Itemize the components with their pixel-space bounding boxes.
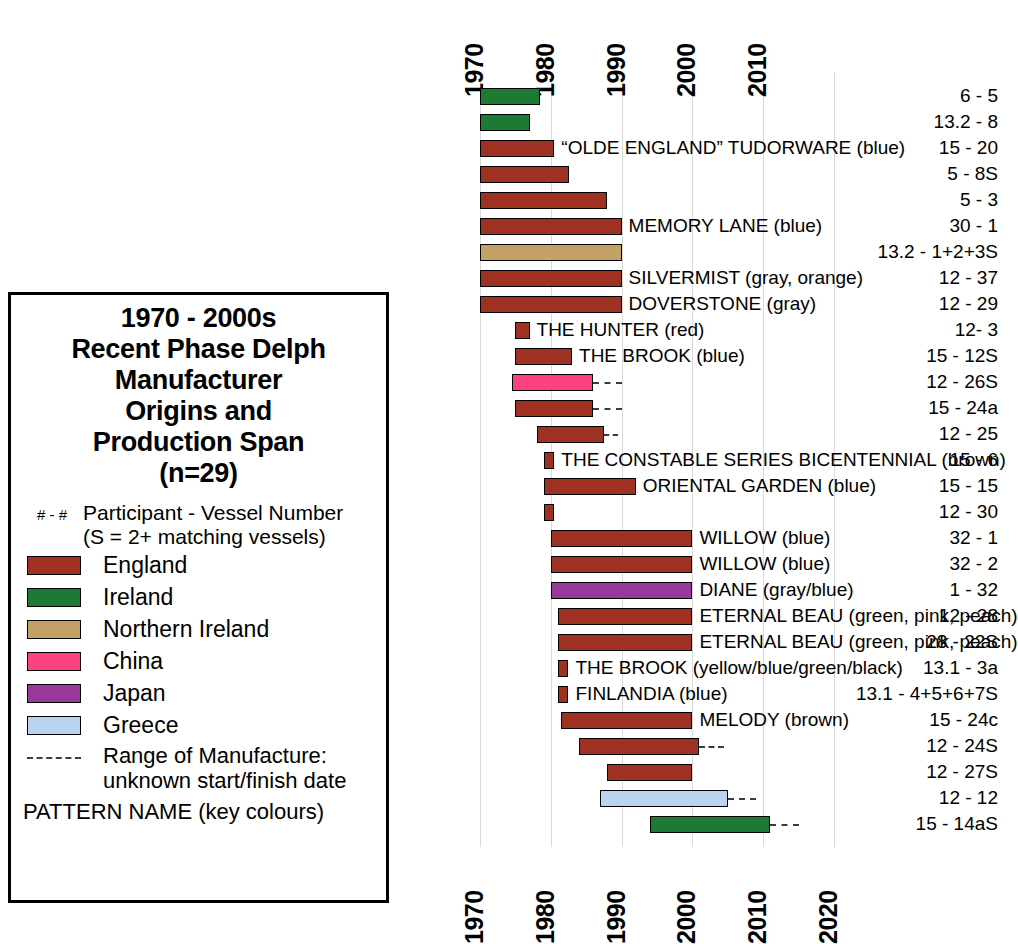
legend-range-note: Range of Manufacture: unknown start/fini…: [21, 743, 376, 793]
range-bar: [607, 764, 692, 781]
range-bar: [600, 790, 727, 807]
chart-row: 13.2 - 1+2+3S: [0, 241, 1002, 267]
range-bar: [537, 426, 604, 443]
pattern-name-label: WILLOW (blue): [699, 527, 830, 549]
chart-row: 5 - 8S: [0, 163, 1002, 189]
legend-item: England: [21, 549, 376, 581]
axis-bottom-tick-1980: 1980: [531, 890, 560, 944]
legend-color-swatch: [27, 716, 81, 735]
legend-key-note: # - # Participant - Vessel Number (S = 2…: [21, 501, 376, 549]
chart-row: 5 - 3: [0, 189, 1002, 215]
range-bar: [551, 530, 693, 547]
range-bar: [561, 712, 692, 729]
pattern-name-label: WILLOW (blue): [699, 553, 830, 575]
legend-item-label: China: [103, 648, 163, 674]
range-bar: [579, 738, 699, 755]
legend-item-list: EnglandIrelandNorthern IrelandChinaJapan…: [21, 549, 376, 741]
unknown-range-dash: [593, 408, 621, 410]
chart-row: 6 - 5: [0, 85, 1002, 111]
chart-row: 12 - 37SILVERMIST (gray, orange): [0, 267, 1002, 293]
unknown-range-dash: [728, 798, 756, 800]
range-bar: [558, 660, 569, 677]
unknown-range-dash: [604, 434, 618, 436]
range-bar: [480, 88, 540, 105]
pattern-name-label: ORIENTAL GARDEN (blue): [643, 475, 876, 497]
legend-color-swatch: [27, 588, 81, 607]
legend-key-text-line2: (S = 2+ matching vessels): [83, 525, 343, 549]
axis-bottom-tick-1990: 1990: [602, 890, 631, 944]
legend-color-swatch: [27, 620, 81, 639]
unknown-range-dash: [699, 746, 724, 748]
pattern-name-label: DOVERSTONE (gray): [629, 293, 817, 315]
range-bar: [558, 634, 693, 651]
pattern-name-label: “OLDE ENGLAND” TUDORWARE (blue): [561, 137, 905, 159]
range-bar: [551, 582, 693, 599]
pattern-name-label: THE BROOK (blue): [579, 345, 745, 367]
axis-bottom-tick-2010: 2010: [743, 890, 772, 944]
legend-color-swatch: [27, 684, 81, 703]
range-bar: [480, 218, 622, 235]
row-label: 5 - 8S: [526, 163, 1002, 185]
range-bar: [544, 504, 555, 521]
legend-range-line2: unknown start/finish date: [103, 768, 346, 793]
row-label: 12 - 27S: [399, 761, 1002, 783]
pattern-name-label: THE CONSTABLE SERIES BICENTENNIAL (brown…: [561, 449, 1006, 471]
legend-color-swatch: [27, 556, 81, 575]
pattern-name-label: THE HUNTER (red): [537, 319, 705, 341]
range-bar: [650, 816, 770, 833]
unknown-range-dash: [593, 382, 621, 384]
pattern-name-label: THE BROOK (yellow/blue/green/black): [576, 657, 903, 679]
pattern-name-label: MEMORY LANE (blue): [629, 215, 823, 237]
range-bar: [480, 270, 622, 287]
legend-key-text-line1: Participant - Vessel Number: [83, 501, 343, 525]
chart-title-line-3: Manufacturer: [21, 365, 376, 396]
legend-color-swatch: [27, 652, 81, 671]
chart-title-line-1: 1970 - 2000s: [21, 303, 376, 334]
range-bar: [480, 244, 622, 261]
chart-title: 1970 - 2000sRecent Phase DelphManufactur…: [21, 303, 376, 489]
legend-item: China: [21, 645, 376, 677]
pattern-name-label: FINLANDIA (blue): [576, 683, 728, 705]
range-bar: [551, 556, 693, 573]
chart-title-line-6: (n=29): [21, 458, 376, 489]
range-bar: [515, 400, 593, 417]
range-bar: [544, 478, 636, 495]
legend-key-text: Participant - Vessel Number (S = 2+ matc…: [83, 501, 343, 549]
range-bar: [480, 296, 622, 313]
legend-range-line1: Range of Manufacture:: [103, 743, 346, 768]
unknown-range-dash: [770, 824, 798, 826]
pattern-name-label: SILVERMIST (gray, orange): [629, 267, 863, 289]
legend-item: Northern Ireland: [21, 613, 376, 645]
legend-item-label: England: [103, 552, 187, 578]
chart-title-line-5: Production Span: [21, 427, 376, 458]
row-label: 6 - 5: [526, 85, 1002, 107]
axis-bottom-tick-2000: 2000: [672, 890, 701, 944]
pattern-name-label: ETERNAL BEAU (green, pink, peach): [699, 605, 1017, 627]
legend-item: Ireland: [21, 581, 376, 613]
range-bar: [558, 686, 569, 703]
axis-bottom-tick-1970: 1970: [460, 890, 489, 944]
range-bar: [544, 452, 555, 469]
legend-dash-swatch: [27, 757, 81, 759]
legend-item: Japan: [21, 677, 376, 709]
chart-row: 15 - 20“OLDE ENGLAND” TUDORWARE (blue): [0, 137, 1002, 163]
pattern-name-label: ETERNAL BEAU (green, pink, peach): [699, 631, 1017, 653]
legend-range-text: Range of Manufacture: unknown start/fini…: [103, 743, 346, 793]
chart-row: 13.2 - 8: [0, 111, 1002, 137]
axis-bottom-tick-2020: 2020: [814, 890, 843, 944]
row-label: 13.2 - 8: [526, 111, 1002, 133]
legend-item-label: Japan: [103, 680, 166, 706]
range-bar: [480, 192, 607, 209]
chart-row: 30 - 1MEMORY LANE (blue): [0, 215, 1002, 241]
chart-title-line-4: Origins and: [21, 396, 376, 427]
range-bar: [480, 140, 554, 157]
legend-item-label: Greece: [103, 712, 178, 738]
legend-key-symbol: # - #: [21, 501, 83, 523]
legend-footer: PATTERN NAME (key colours): [21, 799, 376, 824]
legend-item-label: Ireland: [103, 584, 173, 610]
legend-item-label: Northern Ireland: [103, 616, 269, 642]
range-bar: [515, 348, 572, 365]
range-bar: [480, 166, 569, 183]
range-bar: [480, 114, 530, 131]
legend-item: Greece: [21, 709, 376, 741]
